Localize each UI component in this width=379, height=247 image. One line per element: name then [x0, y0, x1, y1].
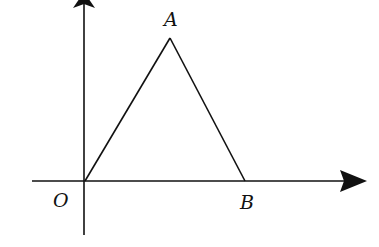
segment-OA	[85, 38, 170, 181]
label-B: B	[239, 191, 254, 213]
diagram-canvas: A O B	[0, 0, 379, 247]
segment-AB	[170, 38, 245, 181]
label-O: O	[53, 189, 69, 211]
x-axis-arrow-icon	[340, 170, 367, 192]
label-A: A	[162, 8, 178, 30]
